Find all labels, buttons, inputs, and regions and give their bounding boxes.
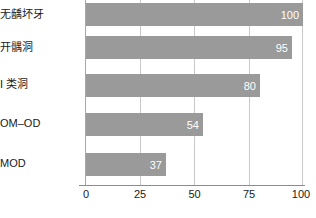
bar-value-1: 95 (276, 42, 288, 53)
bar-0: 100 (86, 3, 303, 26)
bar-3: 54 (86, 113, 203, 136)
x-tick-label-3: 75 (243, 188, 255, 200)
x-tick-label-1: 25 (134, 188, 146, 200)
bar-4: 37 (86, 153, 166, 176)
horizontal-bar-chart: 无龋坏牙 开髃洞 I 类洞 OM–OD MOD 100 95 80 54 37 … (0, 0, 316, 218)
category-label-2: I 类洞 (0, 78, 80, 90)
x-tick-label-2: 50 (188, 188, 200, 200)
bar-value-0: 100 (281, 9, 299, 20)
category-label-3: OM–OD (0, 117, 80, 129)
category-label-1: 开髃洞 (0, 41, 80, 53)
category-label-0: 无龋坏牙 (0, 8, 80, 20)
x-tick-label-4: 100 (292, 188, 310, 200)
bar-value-4: 37 (150, 159, 162, 170)
x-tick-label-0: 0 (83, 188, 89, 200)
gridline-100 (302, 0, 303, 185)
bar-2: 80 (86, 74, 260, 97)
bar-value-2: 80 (244, 80, 256, 91)
plot-area: 100 95 80 54 37 0 25 50 75 100 (85, 0, 303, 185)
category-label-4: MOD (0, 157, 80, 169)
bar-1: 95 (86, 36, 292, 59)
bar-value-3: 54 (187, 119, 199, 130)
x-axis-line (79, 185, 305, 186)
